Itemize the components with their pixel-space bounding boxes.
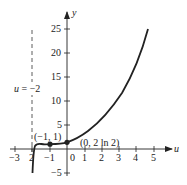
svg-text:2: 2 (99, 152, 104, 163)
svg-text:0: 0 (70, 152, 75, 163)
y-axis-label: y (71, 7, 77, 18)
svg-text:25: 25 (51, 23, 61, 34)
svg-text:4: 4 (133, 152, 138, 163)
point-label-neg1-1: (−1, 1) (34, 131, 61, 143)
point-neg1-1 (47, 142, 52, 147)
asymptote-label: u = −2 (14, 83, 40, 94)
point-label-0-2ln2: (0, 2 ln 2) (80, 137, 119, 149)
svg-text:1: 1 (82, 152, 87, 163)
svg-text:3: 3 (116, 152, 121, 163)
x-tick-labels: −3 2 −1 0 1 2 3 4 5 (9, 152, 156, 163)
svg-text:5: 5 (151, 152, 156, 163)
svg-text:−5: −5 (51, 167, 62, 178)
function-graph: u = −2 u y −3 2 −1 0 1 2 3 4 5 25 20 (0, 0, 187, 185)
svg-text:−3: −3 (9, 152, 20, 163)
point-0-2ln2 (64, 140, 69, 145)
svg-text:−1: −1 (44, 152, 55, 163)
x-axis-label: u (174, 143, 179, 154)
svg-text:5: 5 (57, 119, 62, 130)
svg-text:15: 15 (51, 71, 61, 82)
svg-text:10: 10 (51, 95, 61, 106)
svg-text:20: 20 (51, 47, 61, 58)
